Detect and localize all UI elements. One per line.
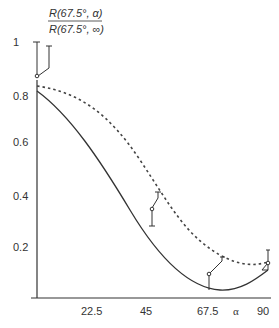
data-point-90 [262,250,270,270]
data-point-67.5 [207,257,225,290]
x-tick-45: 45 [140,305,152,317]
y-label-denominator: R(67.5°, ∞) [49,23,104,35]
chart: R(67.5°, α) R(67.5°, ∞) 1 0.8 0.6 0.4 0.… [0,0,279,328]
data-point-45 [149,192,161,226]
data-point-0 [33,42,52,78]
y-label-numerator: R(67.5°, α) [49,7,103,19]
x-axis-label: α [233,305,239,317]
x-tick-90: 90 [257,305,269,317]
dashed-curve [37,86,268,264]
y-tick-1: 1 [13,36,19,48]
x-tick-67.5: 67.5 [197,305,218,317]
y-tick-0.4: 0.4 [13,190,28,202]
y-tick-0.6: 0.6 [13,136,28,148]
y-tick-0.2: 0.2 [13,241,28,253]
x-tick-22.5: 22.5 [81,305,102,317]
y-tick-0.8: 0.8 [13,90,28,102]
